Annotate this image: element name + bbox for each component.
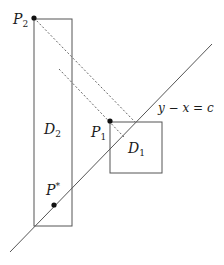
- point-p2: [31, 15, 36, 20]
- label-line-equation: y − x = c: [157, 101, 214, 115]
- label-d2: D2: [43, 121, 61, 139]
- label-p2: P2: [12, 11, 28, 29]
- point-p1: [107, 118, 112, 123]
- label-pstar: P*: [45, 181, 60, 198]
- label-d1: D1: [127, 140, 145, 158]
- label-p1: P1: [90, 124, 106, 142]
- dashed-projection-p2: [34, 18, 135, 122]
- line-y-minus-x-eq-c: [10, 44, 212, 252]
- diagram-canvas: P2 D2 P1 D1 P* y − x = c: [0, 0, 224, 265]
- point-pstar: [51, 202, 56, 207]
